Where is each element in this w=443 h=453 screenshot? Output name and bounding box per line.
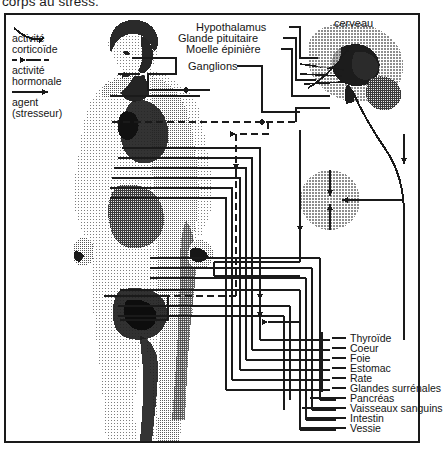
legend-item-1-line2: hormonale [12, 76, 62, 88]
callout-moelle-epiniere: Moelle épinière [186, 43, 261, 55]
legend-item-0-line2: corticoïde [12, 44, 58, 56]
callout-ganglions: Ganglions [188, 60, 238, 72]
legend-item-2-line2: (stresseur) [12, 108, 62, 120]
brain-label: cerveau [334, 17, 373, 29]
organ-label-vessie: Vessie [350, 423, 381, 434]
